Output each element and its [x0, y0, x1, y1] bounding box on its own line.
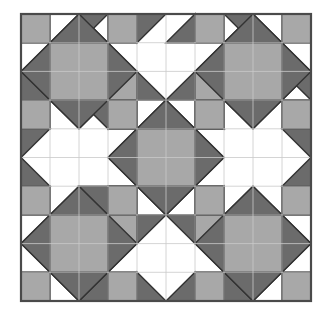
corner-light-square-7 — [282, 186, 311, 215]
corner-light-square-8 — [21, 272, 50, 301]
corner-light-square-10 — [195, 272, 224, 301]
corner-light-square-11 — [282, 272, 311, 301]
corner-light-square-1 — [108, 14, 137, 43]
corner-light-square-6 — [21, 186, 50, 215]
corner-light-square-0 — [21, 14, 50, 43]
link-lr-square2 — [195, 186, 224, 215]
corner-light-square-5 — [282, 100, 311, 129]
corner-light-square-2 — [195, 14, 224, 43]
corner-light-square-4 — [21, 100, 50, 129]
link-ll-square2 — [108, 186, 137, 215]
corner-light-square-9 — [108, 272, 137, 301]
quilt-block-canvas — [0, 0, 331, 316]
quilt-pattern-group — [21, 14, 311, 301]
link-ul-square2 — [108, 100, 137, 129]
corner-light-square-3 — [282, 14, 311, 43]
link-ur-square2 — [195, 100, 224, 129]
quilt-block-figure — [0, 0, 331, 316]
